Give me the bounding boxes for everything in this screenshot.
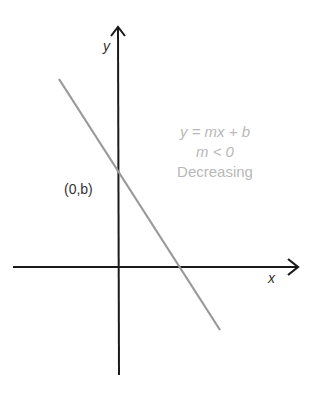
x-axis-label: x bbox=[268, 270, 275, 286]
y-axis-label: y bbox=[103, 38, 110, 54]
slope-condition-text: m < 0 bbox=[160, 142, 270, 162]
coordinate-plane bbox=[0, 0, 310, 404]
decreasing-line bbox=[59, 79, 220, 330]
equation-text: y = mx + b bbox=[160, 122, 270, 142]
y-axis bbox=[118, 28, 119, 375]
y-intercept-label: (0,b) bbox=[64, 181, 93, 197]
equation-annotation: y = mx + b m < 0 Decreasing bbox=[160, 122, 270, 182]
decreasing-text: Decreasing bbox=[160, 162, 270, 182]
